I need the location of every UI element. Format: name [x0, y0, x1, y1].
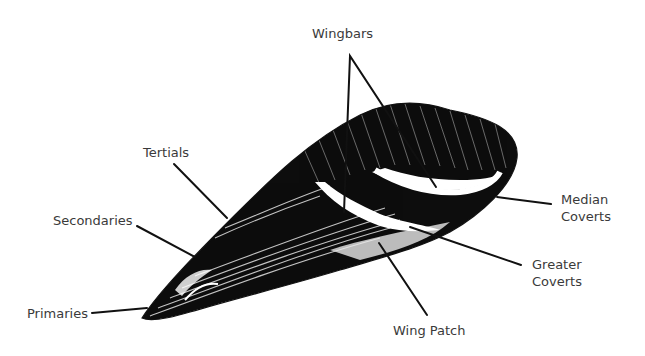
- label-median-coverts: Median Coverts: [561, 191, 611, 225]
- median-line1: Median: [561, 191, 611, 208]
- label-greater-coverts: Greater Coverts: [532, 256, 582, 290]
- greater-line1: Greater: [532, 256, 582, 273]
- greater-coverts-leader: [410, 227, 521, 265]
- median-coverts-leader: [497, 197, 551, 204]
- tertials-leader: [174, 164, 227, 218]
- wing-shape: [142, 103, 517, 320]
- wing-diagram: Wingbars Tertials Secondaries Primaries …: [0, 0, 645, 356]
- wing-patch-leader: [379, 243, 427, 315]
- label-primaries: Primaries: [27, 305, 88, 322]
- label-tertials: Tertials: [143, 144, 189, 161]
- secondaries-leader: [137, 226, 195, 257]
- primaries-leader: [92, 308, 147, 313]
- median-line2: Coverts: [561, 208, 611, 225]
- label-wing-patch: Wing Patch: [393, 322, 466, 339]
- wing-illustration: [0, 0, 645, 356]
- greater-line2: Coverts: [532, 273, 582, 290]
- label-wingbars: Wingbars: [312, 25, 373, 42]
- label-secondaries: Secondaries: [53, 212, 133, 229]
